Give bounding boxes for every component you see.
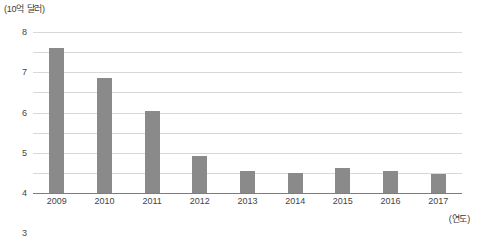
y-axis-tick-label: 5 <box>22 148 27 158</box>
x-axis-tick-label: 2014 <box>285 196 305 206</box>
bar-2014 <box>288 173 303 193</box>
bars-layer <box>33 32 462 193</box>
x-axis-tick-label: 2016 <box>380 196 400 206</box>
y-axis-unit-label: (10억 달러) <box>4 2 45 15</box>
x-axis-tick-label: 2017 <box>428 196 448 206</box>
bar-chart: (10억 달러) 012345678 200920102011201220132… <box>0 0 478 241</box>
x-axis-tick-label: 2013 <box>237 196 257 206</box>
bar-2016 <box>383 171 398 193</box>
y-axis-tick-label: 6 <box>22 108 27 118</box>
bar-2013 <box>240 171 255 193</box>
x-axis-tick-label: 2010 <box>94 196 114 206</box>
y-axis-tick-label: 7 <box>22 67 27 77</box>
x-axis-tick-label: 2009 <box>47 196 67 206</box>
bar-2015 <box>335 168 350 193</box>
x-axis-title: (연도) <box>449 212 470 225</box>
y-axis-tick-label: 8 <box>22 27 27 37</box>
x-axis-tick-label: 2015 <box>333 196 353 206</box>
x-axis-tick-label: 2012 <box>190 196 210 206</box>
y-axis-tick-label: 4 <box>22 188 27 198</box>
bar-2012 <box>192 156 207 193</box>
bar-2011 <box>145 111 160 194</box>
x-axis-labels: 200920102011201220132014201520162017 <box>33 196 462 214</box>
bar-2009 <box>49 48 64 193</box>
x-axis-tick-label: 2011 <box>142 196 161 206</box>
axis-baseline: 0 <box>33 193 462 194</box>
bar-2017 <box>431 174 446 193</box>
y-axis-tick-label: 3 <box>22 228 27 238</box>
bar-2010 <box>97 78 112 193</box>
